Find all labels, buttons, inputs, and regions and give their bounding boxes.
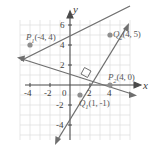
y-tick-label--2: -2 <box>56 101 64 110</box>
y-tick-label-2: 2 <box>60 61 65 70</box>
x-tick-label-2: 2 <box>87 89 92 98</box>
line-p1-p2-arrow-right <box>129 92 137 99</box>
x-axis-arrow <box>134 82 141 88</box>
point-label-q1: Q1(1, -1) <box>79 99 109 110</box>
point-label-p1: P1(-4, 4) <box>26 33 55 44</box>
point-q1 <box>77 92 82 97</box>
y-axis-label: y <box>73 4 78 15</box>
point-label-q2: Q2(4, 5) <box>113 30 141 41</box>
point-label-p2-coords: (4, 0) <box>116 72 134 82</box>
x-tick-label--4: -4 <box>24 89 32 98</box>
point-q2 <box>107 32 112 37</box>
coordinate-plane-figure: x y -4 -2 0 2 4 6 4 2 -2 -4 P1(-4, 4) P2… <box>0 0 158 148</box>
point-label-q1-coords: (1, -1) <box>88 98 109 108</box>
x-axis-label: x <box>143 80 148 91</box>
x-tick-label-0: 0 <box>62 89 67 98</box>
right-angle-marker <box>81 68 91 78</box>
point-label-q2-coords: (4, 5) <box>122 29 140 39</box>
y-tick-label-4: 4 <box>60 41 65 50</box>
point-label-p1-coords: (-4, 4) <box>34 32 55 42</box>
x-tick-label--2: -2 <box>44 89 52 98</box>
x-tick-label-4: 4 <box>107 89 112 98</box>
point-label-p2: P2(4, 0) <box>108 73 135 84</box>
y-tick-label-6: 6 <box>60 21 65 30</box>
y-tick-label--4: -4 <box>56 121 64 130</box>
line-p1-p2-arrow-left <box>17 56 25 63</box>
